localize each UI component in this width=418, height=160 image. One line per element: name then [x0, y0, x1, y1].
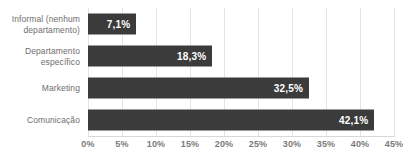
bar-chart: Informal (nenhum departamento)Departamen… [0, 0, 418, 160]
category-label: Marketing [0, 83, 80, 94]
x-tick-label: 10% [147, 139, 166, 149]
bar: 7,1% [88, 14, 136, 35]
bar-value-label: 42,1% [339, 115, 368, 126]
x-tick-label: 35% [317, 139, 336, 149]
category-label: Informal (nenhum departamento) [0, 14, 80, 35]
x-tick-label: 0% [81, 139, 94, 149]
x-axis-tick-labels: 0%5%10%15%20%25%30%35%40%45% [88, 139, 394, 155]
category-label: Departamento específico [0, 46, 80, 67]
category-label: Comunicação [0, 115, 80, 126]
bar-value-label: 7,1% [107, 19, 131, 30]
bar-value-label: 32,5% [274, 83, 303, 94]
category-axis: Informal (nenhum departamento)Departamen… [0, 8, 84, 136]
plot-area: 7,1%18,3%32,5%42,1% [88, 8, 394, 136]
x-tick-label: 20% [215, 139, 234, 149]
bar: 32,5% [88, 78, 309, 99]
gridline [394, 8, 395, 136]
x-tick-label: 40% [351, 139, 370, 149]
bar: 18,3% [88, 46, 212, 67]
x-tick-label: 15% [181, 139, 200, 149]
x-axis-line [88, 136, 395, 137]
x-tick-label: 25% [249, 139, 268, 149]
bar-value-label: 18,3% [177, 51, 206, 62]
x-tick-label: 30% [283, 139, 302, 149]
x-tick-label: 5% [115, 139, 128, 149]
x-tick-label: 45% [385, 139, 404, 149]
bar: 42,1% [88, 110, 374, 131]
